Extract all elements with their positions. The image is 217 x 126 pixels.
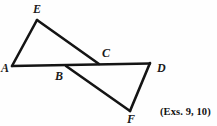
figure-caption: (Exs. 9, 10) [160, 107, 211, 118]
vertex-label-B: B [55, 70, 63, 82]
vertex-label-A: A [1, 62, 9, 74]
segment-B-F [66, 66, 130, 111]
segment-F-D [130, 63, 150, 111]
vertex-label-D: D [157, 62, 166, 74]
vertex-label-F: F [127, 113, 135, 125]
triangle-AEC [12, 20, 99, 66]
geometry-figure: E A B C D F (Exs. 9, 10) [0, 0, 217, 126]
segment-E-C [37, 20, 99, 64]
segment-A-E [12, 20, 37, 66]
segment-A-D [12, 64, 150, 67]
vertex-label-E: E [33, 3, 41, 15]
triangle-BFD [66, 63, 150, 111]
vertex-label-C: C [102, 47, 110, 59]
